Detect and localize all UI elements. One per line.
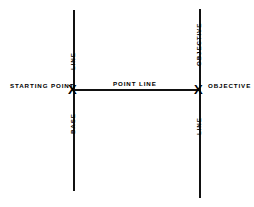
point-line-stroke <box>74 89 200 91</box>
base-line-label-base: BASE <box>70 113 76 134</box>
objective-line-label-line: LINE <box>196 117 202 135</box>
objective-label: OBJECTIVE <box>208 83 251 89</box>
starting-point-label: STARTING POINT <box>10 83 74 89</box>
objective-marker-icon: X <box>194 83 203 96</box>
objective-line-label-objective: OBJECTIVE <box>196 23 202 66</box>
point-line-label: POINT LINE <box>113 81 157 87</box>
base-line-label-line: LINE <box>70 52 76 70</box>
navigation-line-diagram: X X STARTING POINT POINT LINE OBJECTIVE … <box>0 0 254 207</box>
base-line-stroke <box>73 10 75 191</box>
